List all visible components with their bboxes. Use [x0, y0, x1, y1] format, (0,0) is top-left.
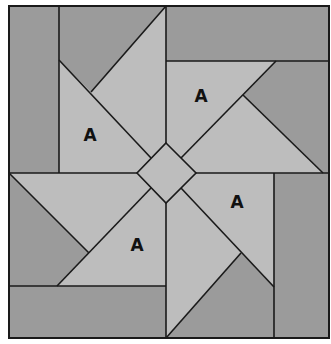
dark-strip-top [166, 6, 329, 61]
label-a-bottom-right: A [230, 192, 244, 212]
label-a-bottom-left: A [130, 235, 144, 255]
dark-strip-left [9, 6, 59, 173]
dark-strip-right [274, 173, 329, 338]
label-a-top-left: A [83, 125, 97, 145]
dark-strip-bottom [9, 286, 166, 338]
pinwheel-diagram: A A A A [0, 0, 331, 344]
label-a-top-right: A [194, 86, 208, 106]
